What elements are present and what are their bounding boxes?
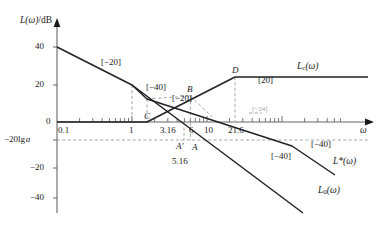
x-tick-label-6: 6 bbox=[189, 126, 194, 135]
point-label-A: A bbox=[192, 143, 198, 152]
point-label-D: D bbox=[232, 66, 239, 75]
x-tick-label-21p6: 21.6 bbox=[228, 126, 244, 135]
y-tick-label-0: 0 bbox=[46, 117, 51, 126]
slope-label-l0-40: [−40] bbox=[146, 83, 166, 92]
y-tick-label-neg20: −20 bbox=[30, 163, 44, 172]
curve-label-Lc-tail: (ω) bbox=[305, 61, 318, 71]
slope-label-faint-24: [−24] bbox=[252, 106, 268, 113]
bode-plot-figure: L(ω)/dB ω 40 20 0 −20lg a −20 −40 0.1 1 … bbox=[0, 0, 387, 228]
slope-label-l0-low-40: [−40] bbox=[271, 152, 291, 161]
point-label-A-prime: A′ bbox=[176, 142, 183, 151]
x-tick-label-3p16: 3.16 bbox=[160, 126, 176, 135]
y-tick-label-40: 40 bbox=[35, 42, 44, 51]
y-axis-arrowhead bbox=[54, 18, 61, 27]
y-tick-label-20lga: −20lg a bbox=[4, 135, 30, 144]
point-label-C: C bbox=[144, 112, 150, 121]
x-tick-label-1: 1 bbox=[129, 126, 134, 135]
curve-label-L0-tail: (ω) bbox=[327, 185, 340, 195]
curve-label-Lc: Lc(ω) bbox=[297, 62, 318, 72]
curve-Lc-path bbox=[57, 77, 368, 122]
slope-label-lc-20: [20] bbox=[258, 76, 273, 85]
y-axis-title: L(ω)/dB bbox=[20, 16, 52, 26]
x-tick-label-0p1: 0.1 bbox=[58, 126, 69, 135]
y-tick-label-neg40: −40 bbox=[30, 193, 44, 202]
point-label-B: B bbox=[187, 85, 193, 94]
curve-Lc bbox=[57, 77, 368, 122]
value-label-5p16: 5.16 bbox=[172, 157, 188, 166]
slope-label-left-20: [−20] bbox=[101, 58, 121, 67]
slope-label-lstar-low-40: [−40] bbox=[311, 140, 331, 149]
x-axis-title: ω bbox=[360, 126, 367, 136]
curve-L0-path bbox=[57, 47, 303, 213]
curve-L0 bbox=[57, 47, 303, 213]
axes-group bbox=[54, 18, 374, 213]
slope-label-lstar-20: [−20] bbox=[172, 94, 192, 103]
curve-label-Lstar: L*(ω) bbox=[333, 157, 356, 167]
x-tick-label-10: 10 bbox=[204, 126, 213, 135]
y-tick-marks bbox=[53, 47, 57, 198]
y-tick-label-20: 20 bbox=[35, 80, 44, 89]
curve-label-L0: L0(ω) bbox=[318, 186, 340, 196]
